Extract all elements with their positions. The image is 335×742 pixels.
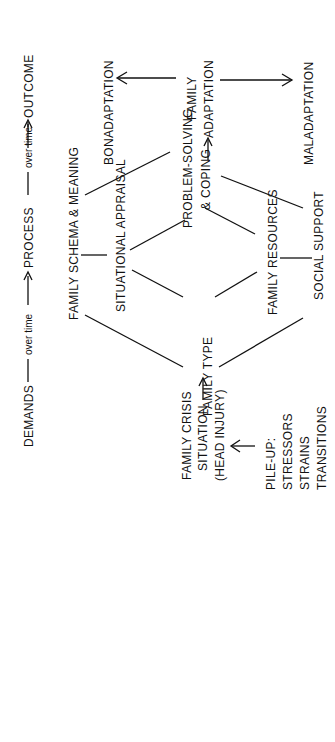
bonadaptation-label: BONADAPTATION [102, 60, 116, 165]
appraisal-label: SITUATIONAL APPRAISAL [114, 159, 128, 312]
family-adaptation-diagram: DEMANDS over time PROCESS over time OUTC… [0, 0, 335, 742]
pileup-label-line1: PILE-UP: [264, 438, 278, 490]
schema-label: FAMILY SCHEMA & MEANING [67, 147, 81, 320]
outcome-label: OUTCOME [22, 55, 36, 118]
maladaptation-label: MALADAPTATION [302, 62, 316, 165]
crisis-label-line1: FAMILY CRISIS [180, 391, 194, 480]
pileup-label-line4: TRANSITIONS [315, 406, 329, 490]
process-label: PROCESS [22, 207, 36, 268]
pileup-label-line2: STRESSORS [281, 413, 295, 490]
adaptation-label-line2: ADAPTATION [202, 60, 216, 138]
timeline: DEMANDS over time PROCESS over time OUTC… [22, 55, 36, 447]
over-time-label-1: over time [23, 313, 34, 355]
resources-label: FAMILY RESOURCES [266, 189, 280, 315]
demands-label: DEMANDS [22, 385, 36, 447]
pileup-label-line3: STRAINS [298, 436, 312, 490]
problem-solving-label-line1: PROBLEM-SOLVING [181, 108, 195, 228]
crisis-label-line3: (HEAD INJURY) [213, 389, 227, 481]
problem-solving-label-line2: & COPING [199, 149, 213, 210]
crisis-label-line2: SITUATION [196, 405, 210, 471]
social-support-label: SOCIAL SUPPORT [312, 191, 326, 300]
